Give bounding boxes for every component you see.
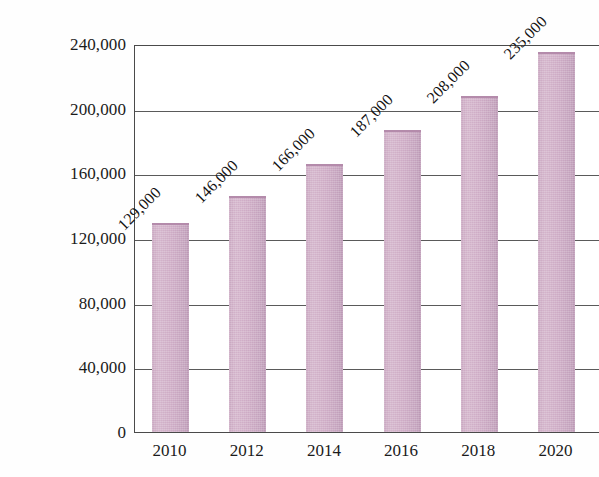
bar	[306, 164, 343, 432]
x-axis-tick-label: 2018	[461, 441, 495, 461]
gridline	[135, 175, 599, 176]
y-axis-tick-label: 40,000	[26, 358, 126, 378]
x-axis-tick-label: 2014	[307, 441, 341, 461]
x-axis-tick-label: 2016	[384, 441, 418, 461]
y-axis-tick-label: 0	[26, 423, 126, 443]
y-axis-tick-labels: 040,00080,000120,000160,000200,000240,00…	[26, 0, 126, 477]
gridline	[135, 240, 599, 241]
bar	[229, 196, 266, 432]
y-axis-tick-label: 200,000	[26, 100, 126, 120]
bar	[538, 52, 575, 432]
bar-chart: Population 040,00080,000120,000160,00020…	[0, 0, 599, 477]
bar	[152, 223, 189, 432]
y-axis-tick-label: 120,000	[26, 229, 126, 249]
x-axis-tick-label: 2010	[153, 441, 187, 461]
y-axis-tick-label: 80,000	[26, 294, 126, 314]
plot-area	[134, 45, 599, 433]
bar	[384, 130, 421, 432]
gridline	[135, 305, 599, 306]
x-axis-tick-label: 2020	[539, 441, 573, 461]
x-axis-tick-label: 2012	[230, 441, 264, 461]
bar	[461, 96, 498, 432]
y-axis-tick-label: 240,000	[26, 35, 126, 55]
gridline	[135, 369, 599, 370]
y-axis-tick-label: 160,000	[26, 164, 126, 184]
